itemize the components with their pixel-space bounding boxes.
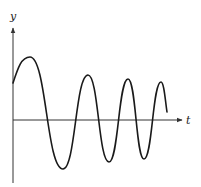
chart-canvas: y t (0, 0, 201, 187)
x-axis-label: t (186, 114, 191, 127)
oscillation-curve (13, 57, 167, 169)
y-axis-label: y (9, 10, 17, 23)
